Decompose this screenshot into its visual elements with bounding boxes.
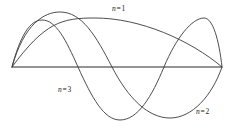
- label-n2-value: 2: [205, 107, 209, 116]
- label-n2: n=2: [196, 108, 209, 116]
- wave-curve-n2: [12, 12, 222, 118]
- standing-wave-figure: n=1 n=3 n=2: [0, 0, 232, 128]
- label-n1-value: 1: [121, 4, 125, 13]
- label-n1: n=1: [112, 5, 125, 13]
- wave-curve-n3: [12, 18, 222, 120]
- label-n3-value: 3: [67, 85, 71, 94]
- wave-curve-n1: [12, 18, 222, 67]
- label-n3: n=3: [58, 86, 71, 94]
